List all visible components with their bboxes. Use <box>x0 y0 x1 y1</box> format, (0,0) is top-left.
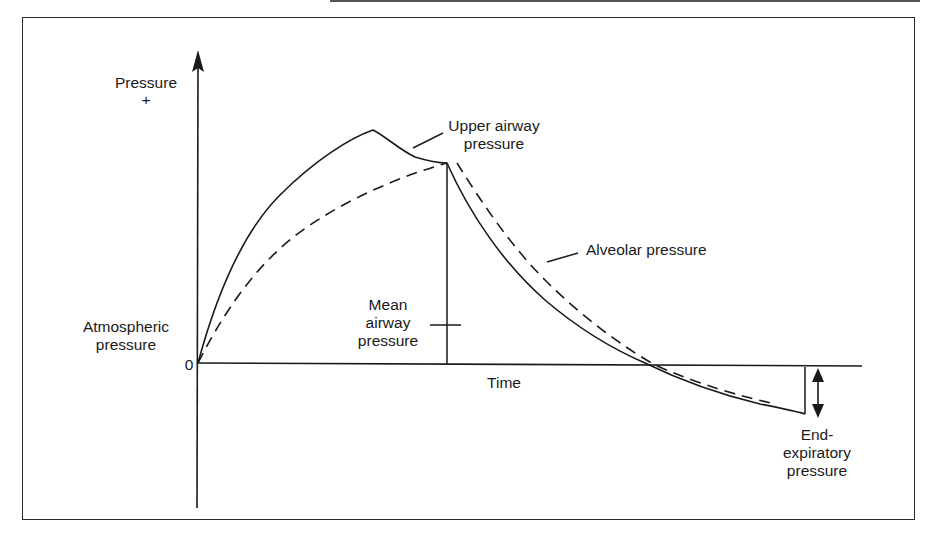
upper-airway-leader <box>413 133 443 148</box>
double-arrow-icon <box>812 368 824 418</box>
origin-label: 0 <box>182 356 196 374</box>
alveolar-pressure-label: Alveolar pressure <box>586 241 707 259</box>
atmospheric-pressure-label: Atmospheric pressure <box>66 318 186 354</box>
y-axis-label: Pressure + <box>106 74 186 109</box>
alveolar-pressure-curve <box>198 163 775 404</box>
mean-airway-pressure-label: Mean airway pressure <box>348 296 428 350</box>
alveolar-leader <box>547 253 578 262</box>
end-expiratory-pressure-label: End- expiratory pressure <box>772 426 862 480</box>
y-axis <box>192 50 204 508</box>
x-axis-baseline <box>198 363 862 366</box>
upper-airway-pressure-label: Upper airway pressure <box>444 117 544 153</box>
time-axis-label: Time <box>484 374 524 392</box>
upper-airway-pressure-curve <box>198 130 805 414</box>
